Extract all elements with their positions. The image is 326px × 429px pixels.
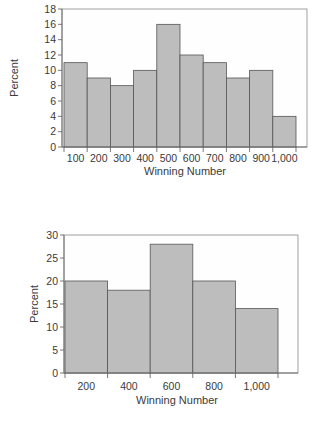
x-tick-label: 500 — [160, 152, 178, 164]
histogram-bar — [64, 63, 87, 147]
figure: 0246810121416181002003004005006007008009… — [0, 0, 326, 429]
y-tick-label: 2 — [50, 125, 56, 137]
histogram-bar — [193, 281, 236, 373]
x-tick-label: 700 — [206, 152, 224, 164]
y-tick-label: 5 — [52, 344, 58, 356]
histogram-bar — [235, 309, 278, 373]
x-axis-title: Winning Number — [144, 165, 226, 177]
histogram-bar — [108, 290, 151, 373]
figure-svg: 0246810121416181002003004005006007008009… — [0, 0, 326, 429]
x-tick-label: 300 — [113, 152, 131, 164]
histogram-bar — [65, 281, 108, 373]
histogram-bar — [150, 244, 193, 373]
y-tick-label: 18 — [44, 3, 56, 15]
histogram-bar — [157, 24, 180, 147]
y-tick-label: 14 — [44, 33, 56, 45]
histogram-bottom: 0510152025302004006008001,000Winning Num… — [28, 229, 298, 406]
y-axis-title: Percent — [8, 59, 20, 97]
histogram-bar — [87, 78, 110, 147]
y-tick-label: 25 — [46, 252, 58, 264]
y-tick-label: 8 — [50, 79, 56, 91]
x-tick-label: 900 — [252, 152, 270, 164]
y-axis-title: Percent — [28, 285, 40, 323]
y-tick-label: 15 — [46, 298, 58, 310]
y-tick-label: 0 — [50, 141, 56, 153]
x-tick-label: 600 — [163, 380, 181, 392]
y-tick-label: 12 — [44, 49, 56, 61]
x-tick-label: 1,000 — [244, 380, 270, 392]
y-tick-label: 10 — [44, 64, 56, 76]
y-tick-label: 16 — [44, 18, 56, 30]
y-tick-label: 6 — [50, 95, 56, 107]
y-tick-label: 0 — [52, 367, 58, 379]
x-tick-label: 200 — [90, 152, 108, 164]
histogram-bar — [226, 78, 249, 147]
x-tick-label: 800 — [205, 380, 223, 392]
x-tick-label: 1,000 — [271, 152, 297, 164]
x-axis-title: Winning Number — [136, 394, 218, 406]
histogram-bar — [273, 116, 296, 147]
x-tick-label: 100 — [67, 152, 85, 164]
histogram-bar — [250, 70, 273, 147]
y-tick-label: 4 — [50, 110, 56, 122]
x-tick-label: 400 — [120, 380, 138, 392]
histogram-bar — [110, 86, 133, 147]
x-tick-label: 800 — [229, 152, 247, 164]
histogram-top: 0246810121416181002003004005006007008009… — [8, 3, 307, 177]
x-tick-label: 200 — [78, 380, 96, 392]
y-tick-label: 30 — [46, 229, 58, 241]
histogram-bar — [180, 55, 203, 147]
x-tick-label: 600 — [183, 152, 201, 164]
histogram-bar — [134, 70, 157, 147]
y-tick-label: 20 — [46, 275, 58, 287]
histogram-bar — [203, 63, 226, 147]
x-tick-label: 400 — [136, 152, 154, 164]
y-tick-label: 10 — [46, 321, 58, 333]
